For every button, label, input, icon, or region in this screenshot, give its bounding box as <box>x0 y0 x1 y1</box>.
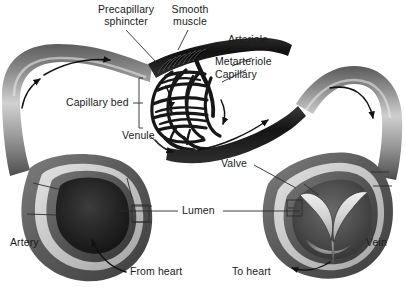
label-from-heart: From heart <box>130 266 182 278</box>
label-smooth-muscle: Smooth muscle <box>150 4 230 27</box>
label-to-heart: To heart <box>232 266 271 278</box>
label-capillary: Capillary <box>215 69 257 81</box>
leader-smooth-muscle <box>178 30 188 50</box>
artery-inflow-arrow <box>22 79 40 108</box>
label-vein: Vein <box>366 237 387 249</box>
label-venule: Venule <box>122 130 155 142</box>
label-arteriole: Arteriole <box>228 34 268 46</box>
label-capillary-bed: Capillary bed <box>66 97 129 109</box>
vein-cross-section <box>263 153 393 279</box>
label-valve: Valve <box>221 158 247 170</box>
vessel-diagram: Precapillary sphincter Smooth muscle Art… <box>0 0 405 292</box>
artery-cross-section <box>21 154 152 281</box>
label-metarteriole: Metarteriole <box>215 56 272 68</box>
diagram-artwork <box>0 0 405 292</box>
vein-outflow-arrow <box>330 87 373 118</box>
capillary-bed-arrow-right <box>221 100 225 124</box>
capillary-bed-network <box>152 70 220 150</box>
leader-precapillary-sphincter <box>126 30 156 62</box>
label-artery: Artery <box>10 237 39 249</box>
label-lumen: Lumen <box>182 205 215 217</box>
